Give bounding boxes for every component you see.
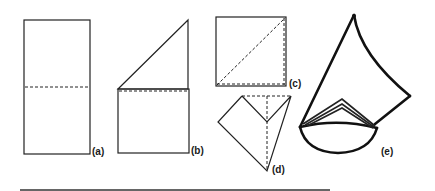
panel-e-figure <box>300 14 410 153</box>
panel-b-label: (b) <box>191 146 204 156</box>
folding-diagram: (a) (b) (c) (d) (e) <box>0 0 435 191</box>
diagram-canvas <box>0 0 435 191</box>
panel-c-label: (c) <box>289 79 301 89</box>
panel-a-label: (a) <box>92 147 104 157</box>
panel-d-label: (d) <box>272 165 285 175</box>
panel-b-figure <box>118 20 189 153</box>
panel-a-figure <box>24 20 90 154</box>
panel-c-figure <box>216 17 286 86</box>
panel-d-figure <box>218 96 291 171</box>
panel-e-label: (e) <box>381 147 393 157</box>
